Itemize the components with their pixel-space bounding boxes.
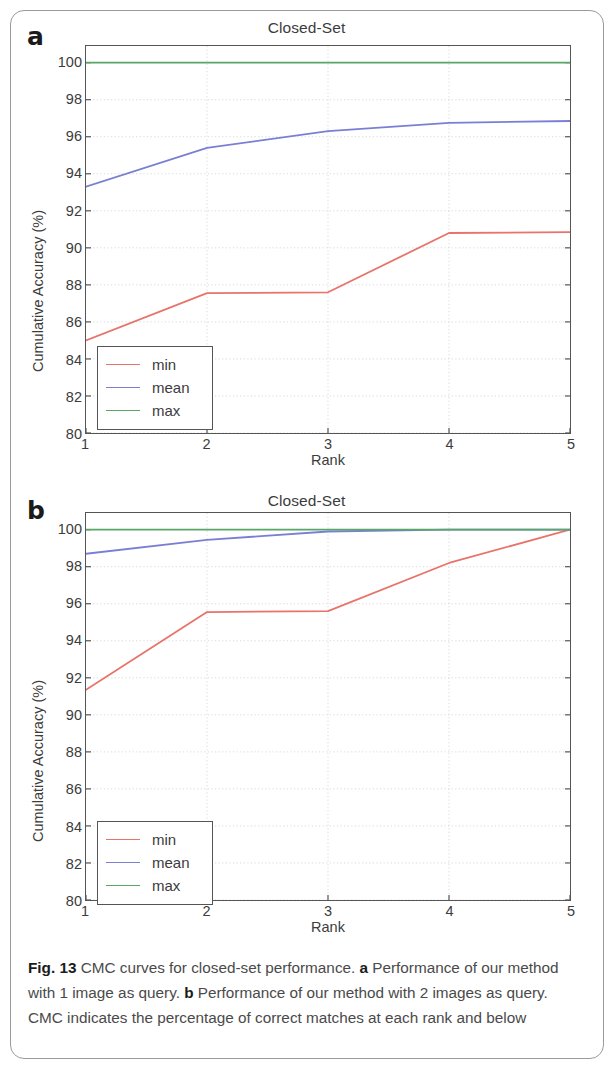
- y-tick-label: 94: [38, 633, 82, 648]
- y-tick-label: 86: [38, 782, 82, 797]
- y-tick-label: 100: [38, 522, 82, 537]
- y-tick-label: 84: [38, 820, 82, 835]
- legend-entry-max: max: [106, 874, 202, 897]
- x-tick-label: 4: [435, 437, 465, 452]
- y-tick-label: 92: [38, 671, 82, 686]
- y-tick-label: 100: [38, 55, 82, 70]
- legend-label-max: max: [152, 878, 180, 893]
- chart-title-b: Closed-Set: [0, 492, 613, 510]
- y-tick-label: 82: [38, 857, 82, 872]
- x-tick-labels-b: 12345: [85, 904, 571, 924]
- legend-entry-mean: mean: [106, 376, 202, 399]
- legend-line-swatch-min: [106, 839, 140, 840]
- y-tick-label: 82: [38, 390, 82, 405]
- figure-caption: Fig. 13 CMC curves for closed-set perfor…: [28, 955, 580, 1030]
- x-tick-label: 3: [313, 437, 343, 452]
- caption-figure-number: Fig. 13: [28, 959, 76, 976]
- legend-label-max: max: [152, 403, 180, 418]
- legend-line-swatch-min: [106, 364, 140, 365]
- y-tick-label: 90: [38, 708, 82, 723]
- legend-label-mean: mean: [152, 380, 190, 395]
- chart-panel-b: b Closed-Set Cumulative Accuracy (%) Ran…: [0, 470, 613, 940]
- x-tick-label: 1: [70, 437, 100, 452]
- y-tick-label: 94: [38, 166, 82, 181]
- y-tick-label: 88: [38, 745, 82, 760]
- y-tick-label: 92: [38, 204, 82, 219]
- x-tick-labels-a: 12345: [85, 437, 571, 457]
- x-tick-label: 1: [70, 904, 100, 919]
- x-tick-label: 3: [313, 904, 343, 919]
- y-tick-label: 96: [38, 129, 82, 144]
- chart-panel-a: a Closed-Set Cumulative Accuracy (%) Ran…: [0, 0, 613, 470]
- caption-subfigure-a: a: [360, 959, 369, 976]
- y-tick-label: 88: [38, 278, 82, 293]
- legend-entry-mean: mean: [106, 851, 202, 874]
- legend-entry-min: min: [106, 828, 202, 851]
- x-tick-label: 2: [192, 904, 222, 919]
- y-tick-label: 86: [38, 315, 82, 330]
- x-tick-label: 5: [556, 904, 586, 919]
- x-tick-label: 4: [435, 904, 465, 919]
- y-tick-label: 96: [38, 596, 82, 611]
- legend-label-mean: mean: [152, 855, 190, 870]
- legend-b: minmeanmax: [97, 821, 213, 905]
- y-tick-label: 84: [38, 353, 82, 368]
- legend-label-min: min: [152, 832, 176, 847]
- caption-subfigure-b: b: [184, 984, 193, 1001]
- legend-entry-max: max: [106, 399, 202, 422]
- x-tick-label: 5: [556, 437, 586, 452]
- y-tick-label: 90: [38, 241, 82, 256]
- chart-title-a: Closed-Set: [0, 19, 613, 37]
- legend-label-min: min: [152, 357, 176, 372]
- legend-a: minmeanmax: [97, 346, 213, 430]
- x-tick-label: 2: [192, 437, 222, 452]
- y-tick-labels-b: 80828486889092949698100: [30, 512, 82, 901]
- legend-line-swatch-mean: [106, 862, 140, 863]
- legend-entry-min: min: [106, 353, 202, 376]
- legend-line-swatch-max: [106, 410, 140, 411]
- legend-line-swatch-mean: [106, 387, 140, 388]
- y-tick-label: 98: [38, 559, 82, 574]
- caption-text-1: CMC curves for closed-set performance.: [76, 959, 359, 976]
- y-tick-label: 98: [38, 92, 82, 107]
- y-tick-labels-a: 80828486889092949698100: [30, 45, 82, 434]
- legend-line-swatch-max: [106, 885, 140, 886]
